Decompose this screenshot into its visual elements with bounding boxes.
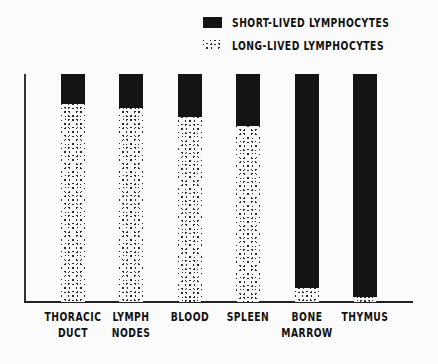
bar-lymph-nodes — [119, 74, 143, 302]
segment-short-lived — [353, 74, 377, 297]
legend-swatch-long-lived — [203, 40, 222, 51]
segment-short-lived — [61, 74, 85, 104]
segment-long-lived — [353, 297, 377, 302]
x-label: SPLEEN — [215, 309, 281, 341]
y-axis — [24, 74, 26, 303]
x-label: BLOOD — [157, 309, 223, 341]
legend-label-short-lived: SHORT-LIVED LYMPHOCYTES — [232, 16, 390, 29]
segment-short-lived — [178, 74, 202, 117]
bar-thoracic-duct — [61, 74, 85, 302]
bar-spleen — [236, 74, 260, 302]
segment-short-lived — [119, 74, 143, 108]
x-label: THORACICDUCT — [40, 309, 106, 341]
segment-short-lived — [295, 74, 319, 288]
legend-label-long-lived: LONG-LIVED LYMPHOCYTES — [232, 39, 384, 52]
bar-blood — [178, 74, 202, 302]
x-label: LYMPHNODES — [98, 309, 164, 341]
segment-short-lived — [236, 74, 260, 126]
segment-long-lived — [295, 288, 319, 302]
segment-long-lived — [236, 126, 260, 302]
x-label: BONEMARROW — [274, 309, 340, 341]
segment-long-lived — [61, 104, 85, 302]
legend-swatch-short-lived — [203, 17, 222, 28]
bar-thymus — [353, 74, 377, 302]
bar-bone-marrow — [295, 74, 319, 302]
segment-long-lived — [119, 108, 143, 302]
segment-long-lived — [178, 117, 202, 302]
x-label: THYMUS — [332, 309, 398, 341]
